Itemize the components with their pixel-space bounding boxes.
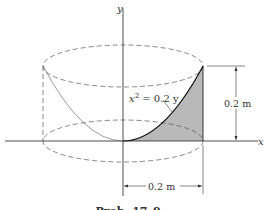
paraboloid-diagram: y x x2 = 0.2 y 0.2 m 0.2 m Prob. 17–9 (0, 0, 265, 210)
height-arrow-bottom (235, 136, 238, 140)
radius-arrow-left (124, 185, 128, 188)
y-axis-label: y (116, 3, 123, 14)
height-arrow-top (235, 67, 238, 71)
radius-dimension-label: 0.2 m (148, 181, 175, 192)
radius-arrow-right (198, 185, 202, 188)
equation-label: x2 = 0.2 y (129, 92, 179, 104)
height-dimension-label: 0.2 m (224, 98, 251, 109)
figure-caption: Prob. 17–9 (95, 205, 160, 210)
x-axis-label: x (258, 136, 264, 147)
